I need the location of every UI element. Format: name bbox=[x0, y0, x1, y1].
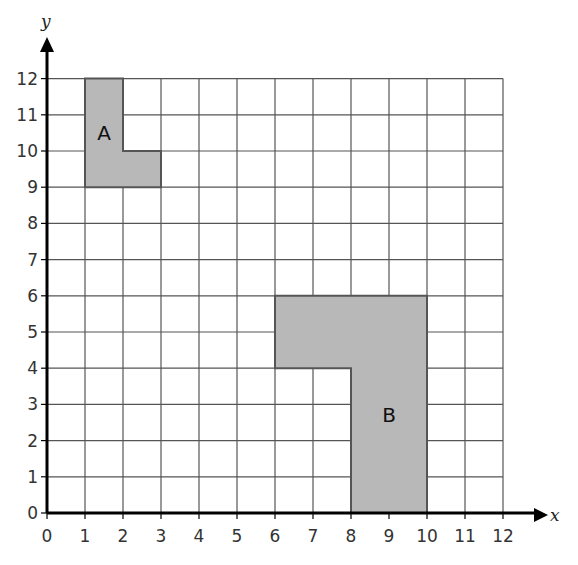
y-tick-label: 1 bbox=[27, 467, 38, 487]
y-axis-label: y bbox=[40, 11, 51, 31]
y-axis-tick-labels: 0123456789101112 bbox=[16, 69, 47, 523]
x-axis-tick-labels: 0123456789101112 bbox=[42, 513, 514, 546]
y-tick-label: 7 bbox=[27, 250, 38, 270]
y-tick-label: 9 bbox=[27, 177, 38, 197]
y-tick-label: 10 bbox=[16, 141, 38, 161]
x-tick-label: 2 bbox=[118, 526, 129, 546]
x-tick-label: 3 bbox=[156, 526, 167, 546]
shape-b-label: B bbox=[382, 403, 396, 427]
x-tick-label: 11 bbox=[454, 526, 476, 546]
y-tick-label: 6 bbox=[27, 286, 38, 306]
shape-a-label: A bbox=[97, 121, 111, 145]
x-tick-label: 12 bbox=[492, 526, 514, 546]
x-tick-label: 10 bbox=[416, 526, 438, 546]
x-axis-label: x bbox=[550, 505, 560, 525]
y-tick-label: 3 bbox=[27, 394, 38, 414]
x-tick-label: 8 bbox=[346, 526, 357, 546]
y-tick-label: 5 bbox=[27, 322, 38, 342]
x-tick-label: 6 bbox=[270, 526, 281, 546]
x-tick-label: 7 bbox=[308, 526, 319, 546]
y-tick-label: 11 bbox=[16, 105, 38, 125]
y-tick-label: 4 bbox=[27, 358, 38, 378]
y-axis-arrow-icon bbox=[40, 37, 54, 52]
x-tick-label: 0 bbox=[42, 526, 53, 546]
x-tick-label: 9 bbox=[384, 526, 395, 546]
x-tick-label: 5 bbox=[232, 526, 243, 546]
x-tick-label: 1 bbox=[80, 526, 91, 546]
y-tick-label: 12 bbox=[16, 69, 38, 89]
y-tick-label: 0 bbox=[27, 503, 38, 523]
shape-a: A bbox=[85, 79, 161, 188]
x-tick-label: 4 bbox=[194, 526, 205, 546]
y-tick-label: 8 bbox=[27, 213, 38, 233]
coordinate-grid-diagram: AB 0123456789101112 0123456789101112 x y bbox=[0, 0, 578, 565]
x-axis-arrow-icon bbox=[534, 508, 548, 522]
y-tick-label: 2 bbox=[27, 431, 38, 451]
